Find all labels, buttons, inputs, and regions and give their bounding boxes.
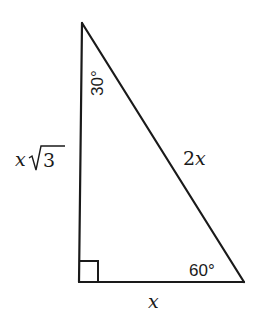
hypotenuse-label: 2 x xyxy=(183,147,206,169)
hypotenuse-num: 2 xyxy=(183,147,195,169)
angle-label-30: 30° xyxy=(88,70,107,96)
left-side-radicand: 3 xyxy=(43,149,55,171)
right-angle-marker xyxy=(79,261,98,282)
hypotenuse-var: x xyxy=(195,147,206,169)
bottom-side-label: x xyxy=(148,290,159,312)
angle-label-60: 60° xyxy=(189,261,215,280)
left-side-var: x xyxy=(15,148,26,170)
left-side-label: x 3 xyxy=(15,146,65,171)
side-left-vertical xyxy=(79,23,82,282)
side-hypotenuse xyxy=(82,23,244,282)
triangle-diagram: 30° 60° x 3 2 x x xyxy=(0,0,257,329)
